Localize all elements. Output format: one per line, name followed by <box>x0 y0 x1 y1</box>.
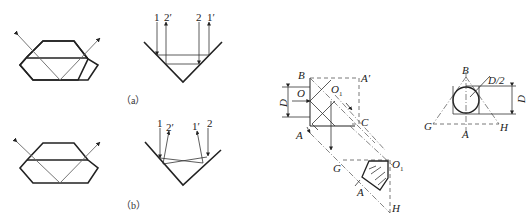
ray-label: 2′ <box>164 11 172 23</box>
prism-unfolding-diagram: B A′ O O 1 D C A G O 1 A H <box>277 69 404 214</box>
label-O1-sub: 1 <box>400 165 404 173</box>
label-D-half: D/2 <box>487 74 505 86</box>
ray-label: 2 <box>207 117 213 129</box>
ray-label: 1′ <box>207 11 215 23</box>
label-H: H <box>391 202 401 214</box>
v-prism-b: 1 2′ 1′ 2 <box>145 117 221 185</box>
ray-label: 1 <box>157 117 163 129</box>
circle-triangle-diagram: B D/2 D G H A <box>424 64 527 140</box>
ray-label: 1 <box>154 11 160 23</box>
ray-label: 2 <box>196 11 202 23</box>
caption-a: （a） <box>121 95 145 106</box>
caption-b: （b） <box>121 200 146 211</box>
label-O: O <box>297 87 305 99</box>
label-O1: O <box>392 158 400 170</box>
hexagon-prism-b <box>17 142 100 183</box>
label-A-lower: A <box>356 186 364 198</box>
label-A-prime: A′ <box>360 72 371 84</box>
label-A: A <box>295 129 303 141</box>
label-G-right: G <box>424 120 432 132</box>
label-B: B <box>298 69 305 81</box>
diagram-canvas: 1 2′ 2 1′ （a） 1 2′ 1′ 2 （b） <box>0 0 531 221</box>
label-D: D <box>277 99 289 108</box>
label-H-right: H <box>499 121 509 133</box>
label-A-right: A <box>461 128 469 140</box>
label-D-right: D <box>515 95 527 104</box>
label-C: C <box>361 116 369 128</box>
hexagon-prism-a <box>18 35 100 80</box>
ray-label: 2′ <box>166 121 174 133</box>
label-B-right: B <box>462 64 469 76</box>
ray-label: 1′ <box>192 120 200 132</box>
v-prism-a: 1 2′ 2 1′ <box>144 11 222 82</box>
label-O1-top-sub: 1 <box>339 90 343 98</box>
label-O1-top: O <box>331 83 339 95</box>
label-G: G <box>333 162 341 174</box>
